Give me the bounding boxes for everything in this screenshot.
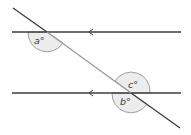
transversal-upper [13,8,47,32]
angle-a-label: a° [34,35,45,46]
angle-c-label: c° [128,79,138,90]
angle-diagram: a° c° b° [0,0,191,135]
diagram-canvas: a° c° b° [0,0,191,135]
transversal-middle [47,32,131,93]
angle-b-label: b° [120,96,131,107]
